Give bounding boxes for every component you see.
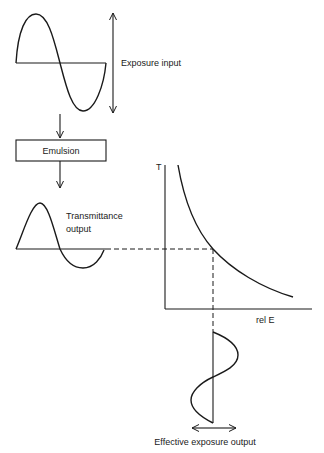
- effective-exposure-wave: [191, 332, 238, 423]
- transmittance-output-group: Transmittance output: [16, 203, 123, 268]
- emulsion-transfer-diagram: Exposure input Emulsion Transmittance ou…: [0, 0, 324, 453]
- exposure-input-label: Exposure input: [121, 58, 182, 68]
- emulsion-block: Emulsion: [16, 140, 106, 161]
- effective-exposure-output-group: Effective exposure output: [154, 332, 256, 447]
- transmittance-label-line2: output: [66, 224, 92, 234]
- exposure-input-group: Exposure input: [16, 13, 182, 113]
- transmittance-label-line1: Transmittance: [66, 211, 123, 221]
- effective-exposure-label: Effective exposure output: [154, 437, 256, 447]
- y-axis-label: T: [156, 162, 162, 172]
- characteristic-curve: [178, 165, 293, 297]
- characteristic-curve-plot: T rel E: [156, 162, 312, 325]
- emulsion-label: Emulsion: [42, 146, 79, 156]
- x-axis-label: rel E: [256, 315, 275, 325]
